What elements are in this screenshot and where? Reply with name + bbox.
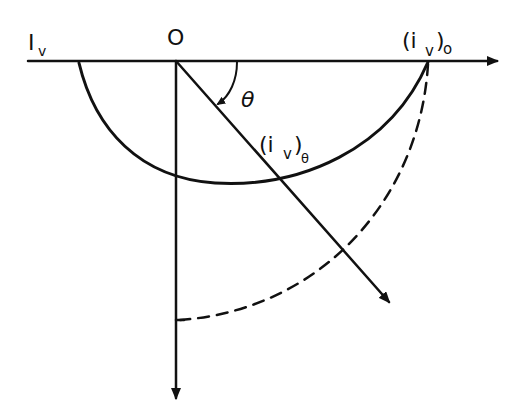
origin-label: O bbox=[167, 25, 184, 50]
angle-arc-theta bbox=[218, 62, 237, 104]
dashed-reference-circle bbox=[180, 64, 428, 320]
axis-end-label-subsub: o bbox=[443, 40, 452, 58]
ray-label-subsub: θ bbox=[301, 151, 309, 166]
horizontal-axis-label: I bbox=[28, 30, 35, 55]
axis-end-label: (i bbox=[402, 28, 417, 53]
axis-end-label-sub: v bbox=[425, 42, 434, 60]
horizontal-axis-label-sub: v bbox=[38, 43, 46, 59]
ray-label: (i bbox=[259, 132, 274, 157]
solid-intensity-curve bbox=[79, 62, 428, 183]
intensity-diagram: I v O (i v ) o θ (i v ) θ bbox=[0, 0, 523, 417]
angle-theta-label: θ bbox=[241, 87, 255, 112]
ray-label-sub: v bbox=[283, 145, 292, 163]
